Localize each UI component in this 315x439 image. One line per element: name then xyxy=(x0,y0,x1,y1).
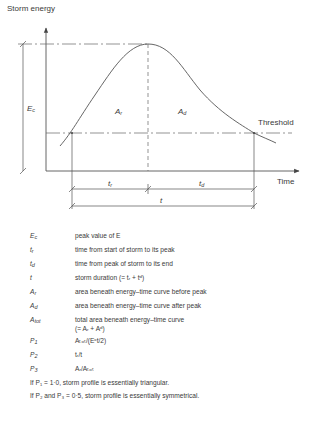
legend-item: Ecpeak value of E xyxy=(30,230,315,244)
legend-item: tstorm duration (= tᵣ + tᵈ) xyxy=(30,272,315,286)
legend-item: Atottotal area beneath energy–time curve… xyxy=(30,314,315,335)
y-axis-label: Storm energy xyxy=(7,5,55,13)
storm-energy-diagram xyxy=(0,0,315,225)
energy-time-curve xyxy=(60,44,276,146)
legend: Ecpeak value of E trtime from start of s… xyxy=(30,230,315,403)
legend-item: tdtime from peak of storm to its end xyxy=(30,258,315,272)
legend-item: P3Aᵣ/Aₜₒₜ xyxy=(30,363,315,377)
legend-item: P1Aₜₒₜ/(Eᶜt/2) xyxy=(30,335,315,349)
area-before-label: Ar xyxy=(115,108,122,117)
threshold-label: Threshold xyxy=(258,119,294,127)
decay-time-label: td xyxy=(199,180,204,189)
duration-label: t xyxy=(160,197,162,205)
legend-item: Ararea beneath energy–time curve before … xyxy=(30,286,315,300)
legend-note: If P₁ = 1·0, storm profile is essentiall… xyxy=(30,377,315,390)
area-after-label: Ad xyxy=(178,108,186,117)
legend-note: If P₂ and P₃ = 0·5, storm profile is ess… xyxy=(30,390,315,403)
legend-item: P2tᵣ/t xyxy=(30,349,315,363)
legend-item: Adarea beneath energy–time curve after p… xyxy=(30,300,315,314)
rise-time-label: tr xyxy=(108,180,112,189)
legend-item: trtime from start of storm to its peak xyxy=(30,244,315,258)
x-axis-label: Time xyxy=(277,178,294,186)
peak-value-label: Ec xyxy=(27,105,35,114)
